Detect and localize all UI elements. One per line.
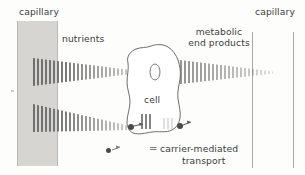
legend-equals-sign: = [149, 143, 157, 154]
capillary-exchange-diagram: = capillary nutrients capillary metaboli… [0, 0, 305, 175]
legend-line1: carrier-mediated [160, 143, 238, 154]
label-capillary-left: capillary [19, 6, 59, 17]
carrier-arrow-efflux-head [187, 121, 191, 125]
legend-carrier-dot [106, 148, 111, 153]
label-nutrients: nutrients [62, 33, 104, 44]
label-cell: cell [144, 94, 160, 105]
legend-line2: transport [160, 155, 225, 167]
label-capillary-right: capillary [255, 6, 295, 17]
label-metabolic-end-products: metabolic end products [186, 26, 252, 48]
label-metabolic-line1: metabolic [196, 26, 242, 37]
carrier-arrow-influx-head [139, 123, 143, 127]
legend-caption: carrier-mediated transport [160, 143, 272, 167]
legend-arrow-head [116, 146, 120, 150]
label-metabolic-line2: end products [188, 37, 250, 48]
